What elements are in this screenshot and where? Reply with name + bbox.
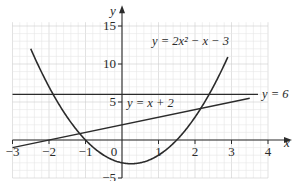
plot-area: −3−2−112340−551015 y x y = 2x² − x − 3 y…: [0, 0, 303, 181]
y-tick-label: 15: [103, 18, 116, 33]
graph-figure: −3−2−112340−551015 y x y = 2x² − x − 3 y…: [0, 0, 303, 181]
x-tick-label: −2: [42, 144, 56, 159]
x-axis-label: x: [283, 135, 290, 150]
x-tick-label: 2: [192, 144, 199, 159]
x-tick-label: −3: [6, 144, 20, 159]
x-tick-label: 4: [265, 144, 272, 159]
y-tick-label: 5: [110, 94, 117, 109]
hline-label: y = 6: [260, 87, 289, 101]
origin-label: 0: [111, 144, 118, 159]
line-label: y = x + 2: [125, 96, 174, 110]
y-tick-label: −5: [102, 170, 116, 181]
y-axis-label: y: [108, 3, 116, 18]
y-tick-label: 10: [103, 56, 116, 71]
x-tick-label: 1: [155, 144, 162, 159]
x-tick-label: 3: [228, 144, 235, 159]
x-tick-label: −1: [79, 144, 93, 159]
curve-label: y = 2x² − x − 3: [150, 34, 229, 48]
y-axis-arrow-icon: [119, 5, 125, 13]
